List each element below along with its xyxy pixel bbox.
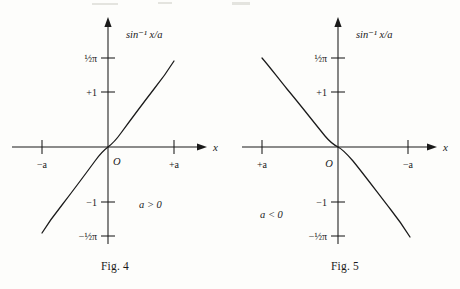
x-tick-label-minus-a: −a	[403, 159, 414, 170]
chart-svg-fig-5: sin⁻¹ x/a x O ½π +1 −1 −½π +a −a a < 0	[230, 0, 460, 260]
x-tick-label-minus-a: −a	[37, 159, 48, 170]
figure-fig-5: sin⁻¹ x/a x O ½π +1 −1 −½π +a −a a < 0 F…	[230, 0, 460, 289]
x-tick-label-plus-a: +a	[169, 159, 180, 170]
scan-artifact	[158, 2, 172, 4]
y-axis-arrowhead	[104, 17, 111, 27]
plot-area-fig-4: sin⁻¹ x/a x O ½π +1 −1 −½π −a +a a > 0	[0, 0, 230, 260]
y-tick-label-minus-half-pi: −½π	[309, 231, 327, 242]
y-axis-label: sin⁻¹ x/a	[356, 29, 392, 40]
y-tick-label-plus-one: +1	[86, 87, 97, 98]
condition-label: a > 0	[139, 199, 163, 210]
y-tick-label-minus-one: −1	[316, 197, 327, 208]
y-tick-label-minus-one: −1	[86, 197, 97, 208]
x-tick-label-plus-a: +a	[257, 159, 268, 170]
scan-artifact	[232, 2, 250, 5]
x-axis-label: x	[442, 141, 448, 153]
origin-label: O	[325, 158, 333, 169]
y-axis-arrowhead	[334, 17, 341, 27]
x-axis-arrowhead	[427, 143, 437, 150]
figure-page: sin⁻¹ x/a x O ½π +1 −1 −½π −a +a a > 0 F…	[0, 0, 460, 289]
origin-label: O	[113, 156, 121, 167]
x-axis-label: x	[212, 141, 218, 153]
y-tick-label-minus-half-pi: −½π	[79, 231, 97, 242]
figure-caption-fig-5: Fig. 5	[230, 260, 460, 272]
x-axis-arrowhead	[197, 143, 207, 150]
figure-caption-fig-4: Fig. 4	[0, 260, 230, 272]
y-axis-label: sin⁻¹ x/a	[126, 29, 162, 40]
chart-svg-fig-4: sin⁻¹ x/a x O ½π +1 −1 −½π −a +a a > 0	[0, 0, 230, 260]
figure-fig-4: sin⁻¹ x/a x O ½π +1 −1 −½π −a +a a > 0 F…	[0, 0, 230, 289]
y-tick-label-half-pi: ½π	[314, 53, 327, 64]
y-tick-label-half-pi: ½π	[84, 53, 97, 64]
plot-area-fig-5: sin⁻¹ x/a x O ½π +1 −1 −½π +a −a a < 0	[230, 0, 460, 260]
y-tick-label-plus-one: +1	[316, 87, 327, 98]
scan-artifact	[92, 3, 118, 5]
condition-label: a < 0	[260, 209, 284, 220]
